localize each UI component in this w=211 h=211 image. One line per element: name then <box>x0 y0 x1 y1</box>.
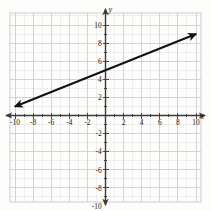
tick-label: -4 <box>66 118 72 127</box>
tick-label: -6 <box>96 166 102 175</box>
tick-label: 8 <box>176 118 180 127</box>
tick-label: -8 <box>30 118 36 127</box>
tick-label: 8 <box>98 39 102 48</box>
tick-label: 6 <box>158 118 162 127</box>
coordinate-plane: -10-8-6-4-2246810-10-8-6-4-2246810 x y <box>0 0 211 211</box>
tick-label: -2 <box>84 118 90 127</box>
tick-label: 10 <box>192 118 200 127</box>
tick-label: -4 <box>96 147 102 156</box>
tick-label: -10 <box>10 118 20 127</box>
tick-label: 2 <box>98 93 102 102</box>
x-axis-label: x <box>199 112 204 121</box>
tick-label: -10 <box>92 202 102 211</box>
tick-label: -8 <box>96 184 102 193</box>
tick-label: -2 <box>96 129 102 138</box>
y-axis-label: y <box>108 5 113 14</box>
graph-figure: -10-8-6-4-2246810-10-8-6-4-2246810 x y <box>0 0 211 211</box>
tick-label: 2 <box>122 118 126 127</box>
tick-label: -6 <box>48 118 54 127</box>
tick-label: 10 <box>94 21 102 30</box>
tick-label: 6 <box>98 57 102 66</box>
tick-label: 4 <box>140 118 144 127</box>
tick-label: 4 <box>98 75 102 84</box>
